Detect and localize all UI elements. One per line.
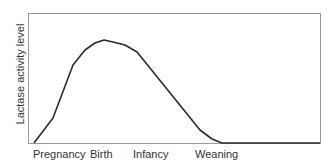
x-tick-birth: Birth bbox=[90, 148, 113, 160]
y-axis-label: Lactase activity level bbox=[14, 14, 26, 134]
x-tick-weaning: Weaning bbox=[195, 148, 238, 160]
lactase-curve bbox=[34, 40, 320, 143]
lactase-chart bbox=[0, 0, 334, 167]
x-tick-infancy: Infancy bbox=[133, 148, 168, 160]
plot-frame bbox=[29, 14, 321, 144]
x-tick-pregnancy: Pregnancy bbox=[33, 148, 86, 160]
